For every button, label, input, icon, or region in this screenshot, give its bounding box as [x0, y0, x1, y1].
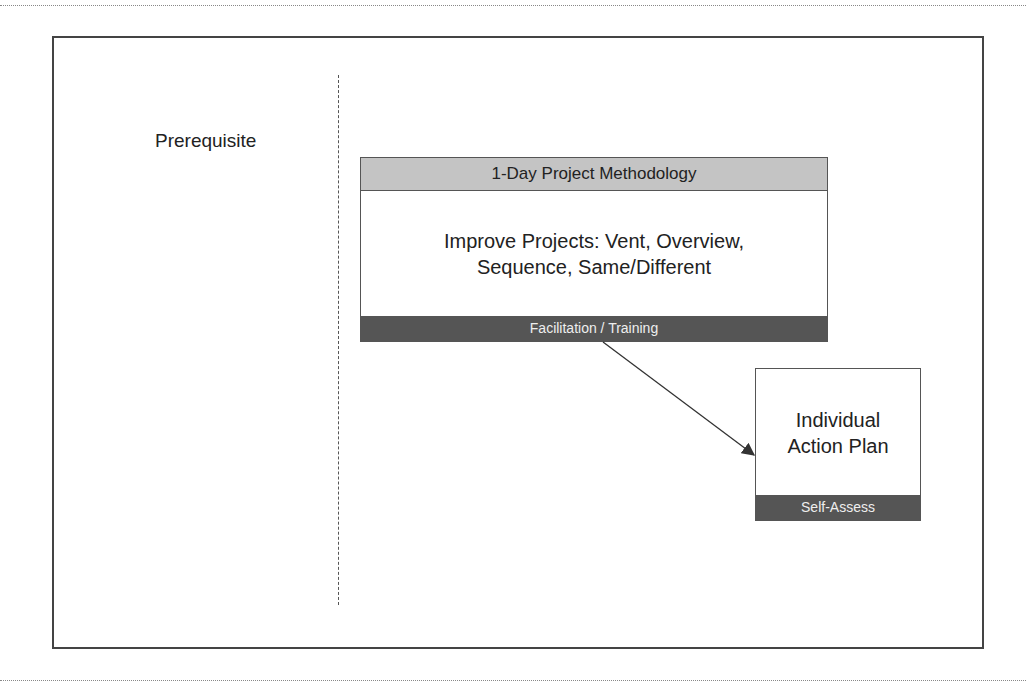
connector-arrow-icon: [0, 0, 1026, 687]
